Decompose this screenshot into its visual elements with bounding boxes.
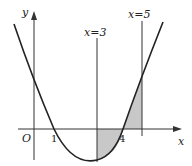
- x-axis-arrow-icon: [173, 126, 182, 132]
- tick-label-1: 1: [51, 133, 57, 144]
- parabola-diagram: y x O 1 4 x=3 x=5: [0, 0, 192, 166]
- y-axis-arrow-icon: [31, 11, 37, 20]
- origin-label: O: [22, 132, 31, 145]
- y-axis-label: y: [21, 6, 29, 19]
- x-axis-label: x: [178, 135, 185, 148]
- tick-label-4: 4: [119, 133, 125, 144]
- vertical-line-x5-label: x=5: [128, 8, 150, 21]
- vertical-line-x3-label: x=3: [84, 26, 106, 39]
